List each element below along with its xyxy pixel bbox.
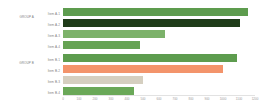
x-tick-label-4: 400 [124,98,129,101]
category-label-7: Item B-4 [48,92,60,95]
x-tick-label-7: 700 [172,98,177,101]
x-tick-label-10: 1000 [220,98,227,101]
x-tick-label-1: 100 [76,98,81,101]
bar-4[interactable] [63,54,237,62]
x-tick-label-9: 900 [204,98,209,101]
category-label-5: Item B-2 [48,70,60,73]
category-label-3: Item A-4 [48,46,60,49]
x-tick-label-2: 200 [92,98,97,101]
x-tick-label-3: 300 [108,98,113,101]
category-label-6: Item B-3 [48,81,60,84]
category-label-1: Item A-2 [48,24,60,27]
group-label-0: GROUP A [19,16,34,19]
category-label-4: Item B-1 [48,59,60,62]
category-label-2: Item A-3 [48,35,60,38]
x-axis-line [63,95,255,96]
bar-6[interactable] [63,76,143,84]
horizontal-bar-chart: GROUP A GROUP B Item A-1 Item A-2 Item A… [0,0,266,110]
group-label-column: GROUP A GROUP B [0,0,36,110]
x-axis: 0100200300400500600700800900100011001200 [63,95,255,110]
x-tick-label-8: 800 [188,98,193,101]
group-label-1: GROUP B [19,62,34,65]
category-label-0: Item A-1 [48,13,60,16]
x-tick-label-12: 1200 [252,98,259,101]
category-label-column: Item A-1 Item A-2 Item A-3 Item A-4 Item… [36,0,62,110]
x-tick-label-6: 600 [156,98,161,101]
plot-area [63,0,255,95]
x-tick-label-0: 0 [62,98,64,101]
bar-5[interactable] [63,65,223,73]
bar-0[interactable] [63,8,248,16]
bar-3[interactable] [63,41,140,49]
x-tick-label-11: 1100 [236,98,242,101]
bar-1[interactable] [63,19,240,27]
bar-7[interactable] [63,87,134,95]
bar-2[interactable] [63,30,165,38]
x-tick-label-5: 500 [140,98,145,101]
